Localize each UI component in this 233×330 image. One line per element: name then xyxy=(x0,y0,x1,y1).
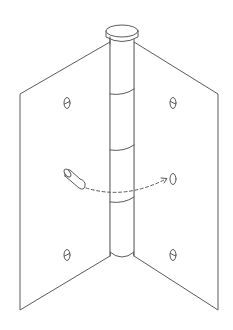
hinge-diagram xyxy=(0,0,233,330)
hinge-barrel xyxy=(110,31,134,257)
hinge-illustration xyxy=(0,0,233,330)
